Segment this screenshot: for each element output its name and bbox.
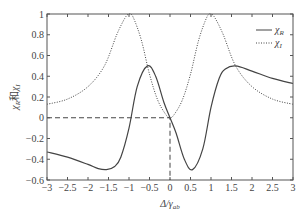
- x-tick-label: −1: [124, 182, 135, 193]
- x-tick-label: −2: [83, 182, 94, 193]
- legend-chi-i-label: χI: [274, 37, 282, 50]
- x-tick-label: 1: [209, 182, 214, 193]
- x-tick-label: 1.5: [225, 182, 238, 193]
- dashed-guide: [47, 118, 170, 180]
- series-chi-i: [47, 14, 293, 118]
- legend: χR χI: [256, 24, 284, 50]
- y-tick-label: −0.2: [26, 133, 44, 144]
- x-tick-label: 0: [168, 182, 173, 193]
- y-tick-label: 1: [39, 9, 44, 20]
- x-tick-label: 3: [291, 182, 296, 193]
- y-tick-label: 0.4: [32, 71, 45, 82]
- x-tick-label: 2: [250, 182, 255, 193]
- x-tick-label: −1.5: [99, 182, 117, 193]
- y-axis-label: χR和χI: [9, 84, 22, 111]
- x-tick-label: −2.5: [58, 182, 76, 193]
- y-tick-label: 0: [39, 112, 44, 123]
- x-axis-label: Δ/γab: [159, 198, 180, 211]
- plot-curves: [47, 14, 293, 180]
- y-tick-label: −0.6: [26, 175, 44, 186]
- y-tick-label: 0.8: [32, 29, 45, 40]
- axis-ticks: −3−2.5−2−1.5−1−0.500.511.522.53−0.6−0.4−…: [26, 9, 296, 194]
- x-tick-label: 2.5: [266, 182, 279, 193]
- y-tick-label: 0.6: [32, 50, 45, 61]
- y-tick-label: −0.4: [26, 154, 44, 165]
- x-tick-label: −0.5: [140, 182, 158, 193]
- y-tick-label: 0.2: [32, 92, 45, 103]
- chart: −3−2.5−2−1.5−1−0.500.511.522.53−0.6−0.4−…: [0, 0, 308, 213]
- x-tick-label: 0.5: [184, 182, 197, 193]
- legend-chi-r-label: χR: [274, 24, 284, 37]
